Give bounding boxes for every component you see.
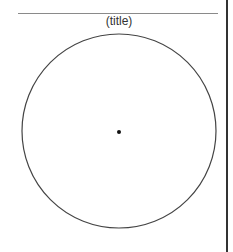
center-point	[117, 130, 121, 134]
diagram-canvas	[0, 0, 233, 252]
